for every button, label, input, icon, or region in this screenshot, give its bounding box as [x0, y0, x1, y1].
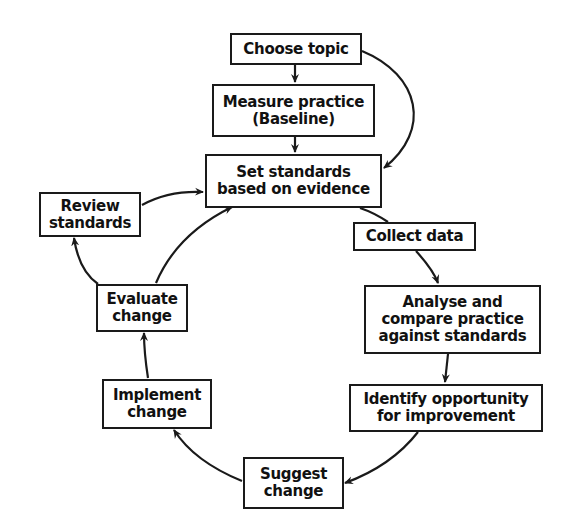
node-label: Measure practice	[223, 94, 364, 111]
node-label: Evaluate	[106, 291, 177, 308]
node-label: Identify opportunity	[363, 391, 528, 408]
node-label: change	[112, 308, 171, 325]
node-label: for improvement	[377, 408, 515, 425]
node-label: Choose topic	[243, 41, 348, 58]
arrow-evaluate-to-set-standards	[156, 207, 232, 283]
node-suggest-change: Suggest change	[243, 457, 344, 509]
node-label: (Baseline)	[252, 111, 335, 128]
node-label: Analyse and	[403, 294, 503, 311]
connector-arrows	[0, 0, 570, 531]
node-label: Implement	[113, 387, 201, 404]
arrow-collect-to-analyse	[416, 251, 438, 283]
arrow-implement-to-evaluate	[144, 333, 148, 378]
node-review-standards: Review standards	[39, 192, 141, 237]
node-evaluate-change: Evaluate change	[96, 284, 188, 332]
node-identify-opportunity: Identify opportunity for improvement	[349, 384, 543, 432]
node-label: change	[264, 483, 323, 500]
node-label: against standards	[379, 328, 527, 345]
node-label: Review	[61, 198, 120, 215]
audit-cycle-diagram: Choose topic Measure practice (Baseline)…	[0, 0, 570, 531]
node-label: compare practice	[381, 311, 523, 328]
arrow-review-to-set-standards	[142, 192, 203, 205]
arrow-suggest-to-implement	[174, 430, 242, 481]
arrow-evaluate-to-review	[74, 238, 98, 284]
node-label: Suggest	[260, 466, 327, 483]
arrow-analyse-to-identify	[445, 354, 448, 382]
node-label: Set standards	[236, 164, 350, 181]
node-label: standards	[49, 215, 131, 232]
node-label: based on evidence	[217, 181, 370, 198]
node-label: change	[127, 404, 186, 421]
node-measure-practice: Measure practice (Baseline)	[212, 84, 375, 137]
node-implement-change: Implement change	[102, 379, 212, 429]
node-label: Collect data	[366, 228, 464, 245]
node-choose-topic: Choose topic	[230, 33, 362, 65]
arrow-identify-to-suggest	[345, 432, 418, 483]
node-analyse-compare: Analyse and compare practice against sta…	[364, 285, 541, 354]
node-set-standards: Set standards based on evidence	[205, 154, 382, 208]
node-collect-data: Collect data	[353, 222, 476, 251]
arrow-set-standards-to-collect	[360, 208, 388, 222]
